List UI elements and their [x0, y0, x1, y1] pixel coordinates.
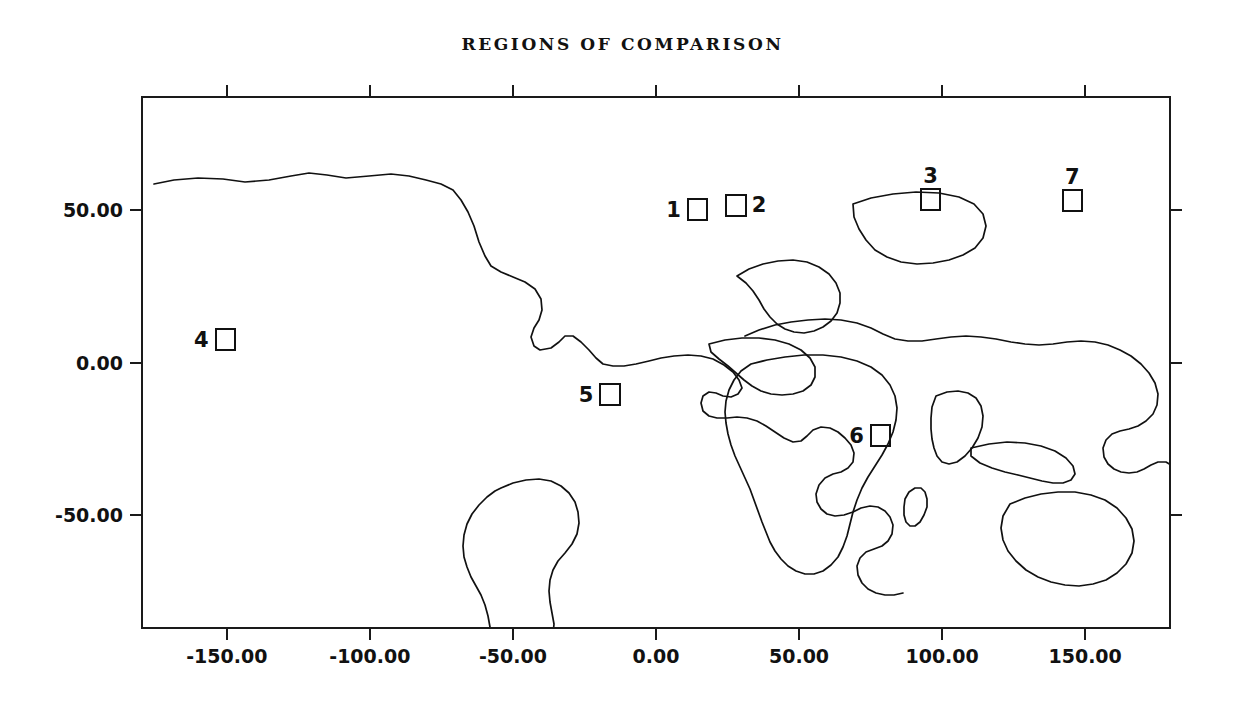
- region-box-1[interactable]: [687, 198, 708, 221]
- x-tick-label: 150.00: [1048, 645, 1121, 667]
- region-box-4[interactable]: [215, 328, 236, 351]
- y-tick-label: 0.00: [76, 352, 123, 374]
- x-tick-mark-top: [1084, 85, 1086, 96]
- x-tick-mark: [798, 629, 800, 640]
- x-tick-mark-top: [369, 85, 371, 96]
- region-box-6[interactable]: [870, 424, 891, 447]
- x-tick-mark: [512, 629, 514, 640]
- x-tick-mark-top: [798, 85, 800, 96]
- x-tick-mark: [226, 629, 228, 640]
- region-box-7[interactable]: [1062, 189, 1083, 212]
- world-coastline-map: [141, 96, 1171, 629]
- region-label-6: 6: [849, 425, 864, 446]
- coastline-australia: [1001, 492, 1134, 586]
- x-tick-mark: [369, 629, 371, 640]
- x-tick-label: -100.00: [329, 645, 410, 667]
- y-tick-mark: [130, 514, 141, 516]
- coastline-north-america: [154, 173, 903, 595]
- x-tick-mark-top: [226, 85, 228, 96]
- x-tick-mark: [655, 629, 657, 640]
- x-tick-label: 50.00: [769, 645, 829, 667]
- coastline-africa: [725, 355, 897, 574]
- x-tick-label: -150.00: [186, 645, 267, 667]
- y-tick-label: 50.00: [63, 199, 123, 221]
- y-tick-mark-right: [1171, 362, 1182, 364]
- region-label-4: 4: [194, 329, 209, 350]
- map-plot-area[interactable]: [141, 96, 1171, 629]
- x-tick-label: 100.00: [905, 645, 978, 667]
- region-label-3: 3: [923, 166, 938, 187]
- coastline-south-america: [463, 479, 579, 629]
- x-tick-label: -50.00: [479, 645, 547, 667]
- page-title: REGIONS OF COMPARISON: [0, 34, 1245, 54]
- region-label-5: 5: [579, 384, 594, 405]
- region-box-3[interactable]: [920, 188, 941, 211]
- map-figure: REGIONS OF COMPARISON -150.00-100.00-50.…: [0, 0, 1245, 712]
- region-label-7: 7: [1065, 167, 1080, 188]
- y-tick-mark: [130, 209, 141, 211]
- y-tick-mark-right: [1171, 514, 1182, 516]
- coastline-eurasia: [745, 319, 1171, 473]
- coastline-madagascar: [904, 488, 927, 526]
- y-tick-mark: [130, 362, 141, 364]
- region-label-2: 2: [752, 195, 767, 216]
- y-tick-label: -50.00: [55, 504, 123, 526]
- coastline-india: [931, 391, 983, 464]
- region-box-5[interactable]: [599, 383, 620, 406]
- x-tick-mark-top: [941, 85, 943, 96]
- x-tick-mark-top: [655, 85, 657, 96]
- x-tick-label: 0.00: [633, 645, 680, 667]
- region-box-2[interactable]: [725, 194, 746, 217]
- coastline-indonesia: [971, 442, 1075, 483]
- y-tick-mark-right: [1171, 209, 1182, 211]
- x-tick-mark-top: [512, 85, 514, 96]
- x-tick-mark: [1084, 629, 1086, 640]
- region-label-1: 1: [666, 199, 681, 220]
- x-tick-mark: [941, 629, 943, 640]
